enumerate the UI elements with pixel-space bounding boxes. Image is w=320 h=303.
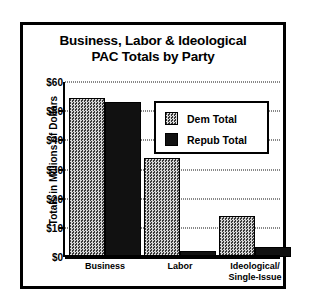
x-label-ideological: Ideological/ Single-Issue [215,261,295,283]
y-axis-tick-labels: $60 $50 $40 $30 $20 $10 $0 [23,25,63,292]
bar-business-repub[interactable] [105,102,141,257]
x-label-business: Business [69,261,141,272]
y-tick-label-30: $30 [29,164,63,175]
chart-frame: Business, Labor & Ideological PAC Totals… [20,22,286,289]
y-tick-label-40: $40 [29,135,63,146]
x-label-business-line-1: Business [85,261,125,271]
repub-swatch-icon [165,133,178,146]
bar-labor-dem[interactable] [144,158,180,257]
legend-item-dem[interactable]: Dem Total [165,108,267,129]
y-tick-label-50: $50 [29,106,63,117]
x-label-labor: Labor [144,261,216,272]
legend-label-dem: Dem Total [187,113,237,125]
x-label-labor-line-1: Labor [167,261,192,271]
bar-group-business [69,82,141,257]
x-label-ideological-line-1: Ideological/ [230,261,280,271]
dem-swatch-icon [165,112,178,125]
y-axis-line [63,82,65,257]
x-axis-labels: Business Labor Ideological/ Single-Issue [65,261,280,291]
x-label-ideological-line-2: Single-Issue [228,272,281,282]
legend-label-repub: Repub Total [187,134,247,146]
y-tick-label-10: $10 [29,222,63,233]
bar-ideological-dem[interactable] [219,216,255,257]
y-tick-label-60: $60 [29,77,63,88]
legend-item-repub[interactable]: Repub Total [165,129,267,150]
plot-wrapper: Totals in Millions of Dollars $60 $50 $4… [23,25,289,292]
bar-business-dem[interactable] [69,98,105,257]
x-axis-baseline [65,255,280,259]
y-tick-label-20: $20 [29,193,63,204]
chart-legend: Dem Total Repub Total [154,101,269,154]
y-tick-label-0: $0 [29,252,63,263]
